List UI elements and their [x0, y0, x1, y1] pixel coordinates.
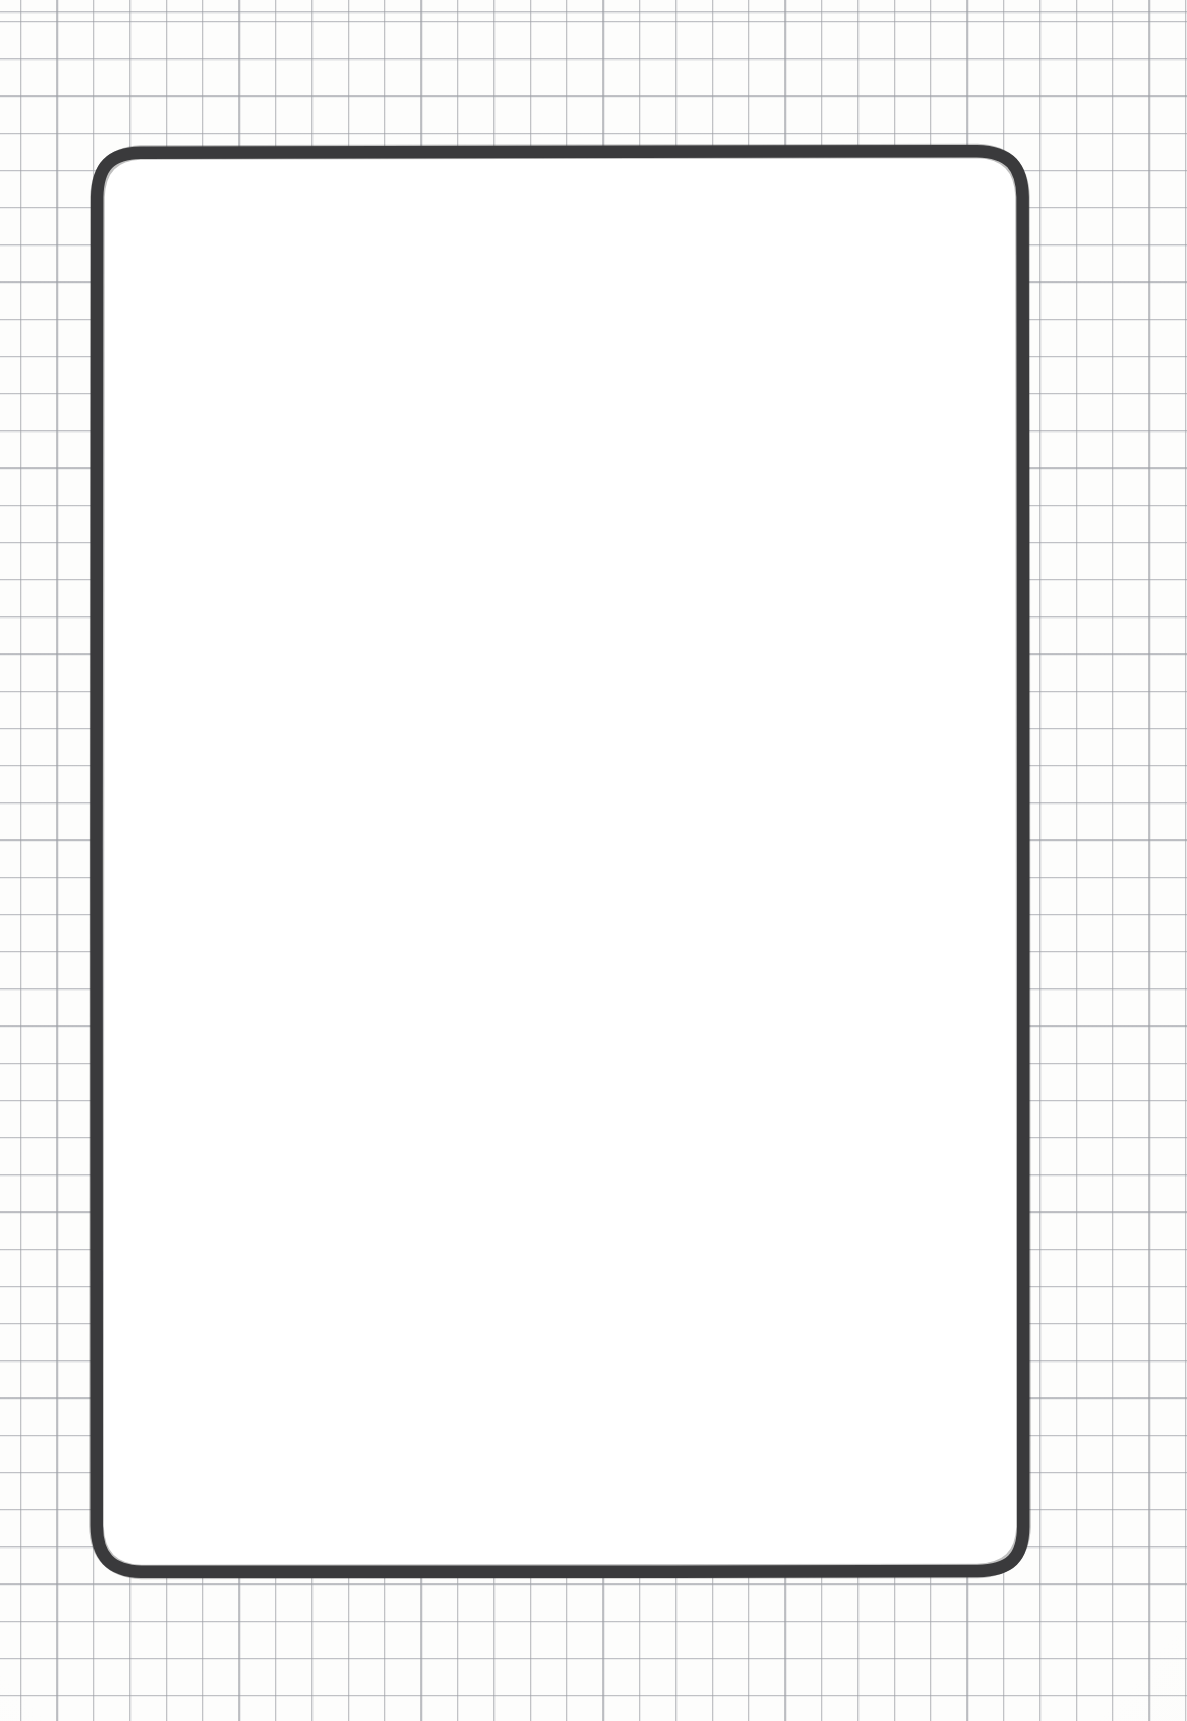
- sketch-page: [0, 0, 1187, 1721]
- card-content-area[interactable]: [101, 159, 1018, 1567]
